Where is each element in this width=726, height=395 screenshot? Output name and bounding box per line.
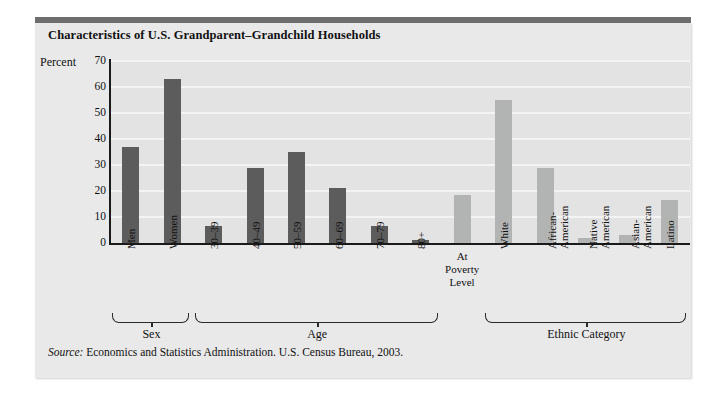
x-tick-label-line: 50–59: [291, 222, 303, 250]
gridline: [110, 86, 690, 88]
gridline: [110, 190, 690, 192]
x-tick-label-line: Native: [587, 206, 599, 249]
x-tick-label-line: White: [498, 222, 510, 249]
x-tick-label-line: American: [600, 206, 612, 249]
y-axis-title: Percent: [40, 55, 76, 70]
y-axis-line: [109, 59, 111, 245]
figure-root: Characteristics of U.S. Grandparent–Gran…: [0, 0, 726, 395]
group-label: Ethnic Category: [485, 327, 687, 342]
gridline: [110, 112, 690, 114]
y-tick-label: 30: [78, 158, 106, 170]
y-tick-label: 60: [78, 80, 106, 92]
source-text: Economics and Statistics Administration.…: [83, 346, 403, 358]
y-tick-label: 40: [78, 132, 106, 144]
gridline: [110, 164, 690, 166]
x-tick-label: 80+: [415, 232, 475, 249]
page-title: Characteristics of U.S. Grandparent–Gran…: [48, 28, 381, 43]
x-tick-label: Latino: [664, 220, 724, 249]
group-label: Sex: [112, 327, 190, 342]
y-tick-label: 50: [78, 106, 106, 118]
x-tick-label-line: Women: [167, 215, 179, 249]
source-prefix: Source:: [48, 346, 83, 358]
x-tick-label-line: 70–79: [374, 222, 386, 250]
y-tick-label: 0: [78, 236, 106, 248]
x-tick-label-line: American: [558, 206, 570, 249]
x-tick-label-line: African-: [546, 206, 558, 249]
y-tick-label: 70: [78, 54, 106, 66]
x-tick-label: At Poverty Level: [428, 250, 496, 289]
x-tick-label-line: Latino: [664, 220, 676, 249]
group-label: Age: [195, 327, 439, 342]
x-tick-label-line: 60–69: [333, 222, 345, 250]
x-tick-label-line: American: [641, 206, 653, 249]
x-tick-label-line: 40–49: [250, 222, 262, 250]
gridline: [110, 138, 690, 140]
x-tick-label-line: 30–39: [208, 222, 220, 250]
x-tick-label-line: Asian-: [629, 206, 641, 249]
y-tick-label: 10: [78, 210, 106, 222]
gridline: [110, 60, 690, 62]
y-tick-label: 20: [78, 184, 106, 196]
x-tick-label-line: Men: [125, 229, 137, 249]
source-note: Source: Economics and Statistics Adminis…: [48, 346, 403, 358]
x-tick-label-line: 80+: [415, 232, 427, 249]
